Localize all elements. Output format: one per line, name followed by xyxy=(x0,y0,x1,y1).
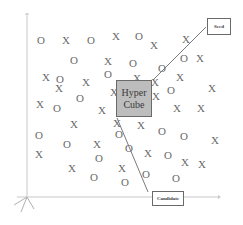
marker-o: O xyxy=(142,169,150,180)
seed-box: Seed xyxy=(207,18,231,35)
marker-x: X xyxy=(70,119,78,130)
marker-x: X xyxy=(150,40,158,51)
marker-o: O xyxy=(87,35,95,46)
marker-x: X xyxy=(118,163,126,174)
marker-o: O xyxy=(135,31,143,42)
hyper-cube-label-line2: Cube xyxy=(123,99,144,111)
seed-label: Seed xyxy=(214,24,224,29)
marker-x: X xyxy=(93,139,101,150)
marker-o: O xyxy=(172,173,180,184)
marker-x: X xyxy=(182,34,190,45)
marker-x: X xyxy=(35,149,43,160)
marker-o: O xyxy=(180,131,188,142)
marker-x: X xyxy=(68,163,76,174)
marker-x: X xyxy=(144,148,152,159)
marker-o: O xyxy=(104,69,112,80)
marker-o: O xyxy=(63,139,71,150)
candidate-label: Candidate xyxy=(157,196,179,201)
marker-x: X xyxy=(42,72,50,83)
z-axis-right xyxy=(27,197,34,209)
marker-x: X xyxy=(104,56,112,67)
marker-x: X xyxy=(176,72,184,83)
marker-x: X xyxy=(112,31,120,42)
marker-o: O xyxy=(129,58,137,69)
marker-o: O xyxy=(180,53,188,64)
marker-o: O xyxy=(167,85,175,96)
marker-o: O xyxy=(125,143,133,154)
marker-x: X xyxy=(211,135,219,146)
marker-o: O xyxy=(37,35,45,46)
marker-x: X xyxy=(98,105,106,116)
marker-x: X xyxy=(198,159,206,170)
candidate-box: Candidate xyxy=(152,191,184,206)
marker-x: X xyxy=(55,83,63,94)
marker-x: X xyxy=(196,53,204,64)
marker-o: O xyxy=(70,55,78,66)
marker-o: O xyxy=(35,130,43,141)
marker-x: X xyxy=(152,91,160,102)
marker-o: O xyxy=(53,103,61,114)
x-axis-arrow-icon xyxy=(218,195,221,199)
marker-o: O xyxy=(115,129,123,140)
marker-x: X xyxy=(151,77,159,88)
hyper-cube-label-line1: Hyper xyxy=(122,87,147,99)
marker-o: O xyxy=(76,93,84,104)
marker-x: X xyxy=(208,83,216,94)
marker-x: X xyxy=(181,157,189,168)
marker-x: X xyxy=(82,77,90,88)
marker-o: O xyxy=(158,126,166,137)
marker-o: O xyxy=(164,150,172,161)
marker-o: O xyxy=(90,172,98,183)
marker-x: X xyxy=(197,103,205,114)
marker-o: O xyxy=(95,153,103,164)
marker-x: X xyxy=(137,120,145,131)
marker-x: X xyxy=(36,99,44,110)
marker-o: O xyxy=(158,63,166,74)
marker-o: O xyxy=(121,177,129,188)
hypercube-search-diagram: OXOXOXXOXOOOXXOXXOXXXXOXXOXOXXXXXXOOXOOO… xyxy=(0,0,243,225)
marker-x: X xyxy=(173,103,181,114)
marker-x: X xyxy=(62,35,70,46)
hyper-cube: Hyper Cube xyxy=(116,80,152,117)
